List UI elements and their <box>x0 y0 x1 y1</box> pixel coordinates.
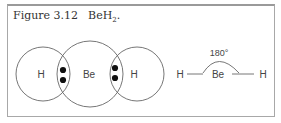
electron-dot <box>60 67 66 73</box>
struct-atom-h-right: H <box>259 69 266 80</box>
struct-atom-be: Be <box>212 69 225 80</box>
electron-dot <box>112 75 118 81</box>
atom-label-h-right: H <box>130 69 137 80</box>
linear-structure-diagram: H Be H 180° <box>176 48 266 80</box>
struct-atom-h-left: H <box>176 69 183 80</box>
electron-dot <box>112 65 118 71</box>
atom-label-h-left: H <box>37 69 44 80</box>
bond-angle-label: 180° <box>210 48 229 58</box>
electron-dot <box>60 77 66 83</box>
atom-label-be: Be <box>83 69 96 80</box>
bonding-diagrams: H Be H H Be H 180° <box>0 0 281 123</box>
